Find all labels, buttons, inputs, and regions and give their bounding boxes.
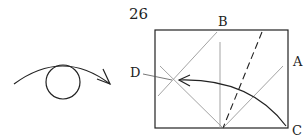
- crease-lines: [158, 32, 283, 128]
- origami-diagram: 26 B A C D: [0, 0, 306, 136]
- label-d: D: [130, 65, 140, 80]
- turn-over-icon: [14, 65, 110, 99]
- label-c: C: [292, 123, 302, 136]
- leader-line-d: [143, 74, 172, 80]
- label-b: B: [218, 14, 228, 29]
- label-a: A: [292, 54, 303, 69]
- valley-fold-line: [223, 32, 262, 128]
- paper-outline: [155, 30, 288, 128]
- step-number: 26: [129, 5, 148, 23]
